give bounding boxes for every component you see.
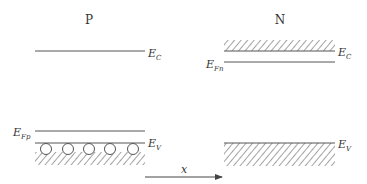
n-region-label: N xyxy=(275,13,286,27)
p-efp-label: EFp xyxy=(12,126,31,141)
hole-icon xyxy=(84,144,95,155)
n-valence-band-hatch xyxy=(224,143,335,166)
hole-icon xyxy=(41,144,52,155)
hole-icon xyxy=(105,144,116,155)
n-conduction-band-hatch xyxy=(224,40,335,51)
n-efn-label: EFn xyxy=(205,58,224,73)
band-diagram: P N EC EC EFn EFp EV EV x xyxy=(0,0,367,184)
n-ev-label: EV xyxy=(337,138,352,153)
p-ec-label: EC xyxy=(147,47,162,62)
x-axis-label: x xyxy=(181,163,188,176)
hole-icon xyxy=(63,144,74,155)
hole-icon xyxy=(128,144,139,155)
n-ec-label: EC xyxy=(337,46,352,61)
p-ev-label: EV xyxy=(147,137,162,152)
p-region-label: P xyxy=(85,13,93,27)
